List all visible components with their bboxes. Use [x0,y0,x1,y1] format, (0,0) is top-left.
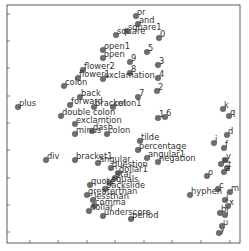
point-label: open [104,49,125,59]
point-label: 7 [139,88,144,98]
point-label: 5 [148,43,153,53]
point-label: colon [108,125,130,135]
point-label: o [208,167,213,177]
point-label: 2 [158,82,163,92]
point-label: 1 [159,109,164,119]
scatter-chart: orandsquare1square0open15open93flower2fl… [0,0,249,251]
point-label: negation [159,153,196,163]
point-label: exclamation [104,70,155,80]
point-label: j [225,191,228,201]
point-label: 3 [159,56,164,66]
point-label: q [230,107,235,117]
point-label: plus [19,98,36,108]
point-label: k [224,100,229,110]
point-label: colon1 [114,98,142,108]
point-label: l [226,206,228,216]
point-label: period [132,210,158,220]
point-label: 0 [160,29,165,39]
point-label: d [228,126,233,136]
point-label: 8 [131,64,136,74]
point-label: x [229,197,234,207]
point-label: div [47,151,60,161]
point-label: minus [76,125,101,135]
point-label: y [220,224,225,234]
point-label: 9 [131,53,136,63]
point-label: hyphen [191,186,222,196]
point-label: m [231,183,239,193]
point-label: square [117,26,145,36]
point-label: i [215,134,217,144]
point-label: 6 [166,108,171,118]
point-label: 4 [159,69,164,79]
point-label: colon [65,77,87,87]
